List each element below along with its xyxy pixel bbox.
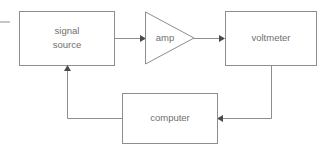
- signal-source-label-line1: signal: [55, 25, 80, 36]
- node-computer: computer: [123, 94, 218, 144]
- diagram-canvas: signal source amp voltmeter: [0, 0, 333, 150]
- amp-to-voltmeter-arrowhead: [219, 35, 225, 42]
- connector-amp-to-voltmeter: [194, 35, 225, 42]
- block-diagram: signal source amp voltmeter: [0, 0, 333, 150]
- connector-voltmeter-to-computer: [217, 65, 272, 122]
- node-voltmeter: voltmeter: [226, 12, 317, 66]
- voltmeter-label: voltmeter: [251, 32, 290, 43]
- computer-label: computer: [150, 112, 190, 123]
- signal-source-label-line2: source: [53, 39, 82, 50]
- node-signal-source: signal source: [20, 12, 115, 66]
- connector-computer-to-signal-source: [64, 65, 122, 119]
- connector-signal-to-amp: [114, 35, 146, 42]
- node-amp: amp: [146, 12, 195, 64]
- amp-label: amp: [156, 32, 174, 43]
- voltmeter-to-computer-line: [223, 65, 272, 119]
- computer-to-signal-line: [68, 71, 123, 119]
